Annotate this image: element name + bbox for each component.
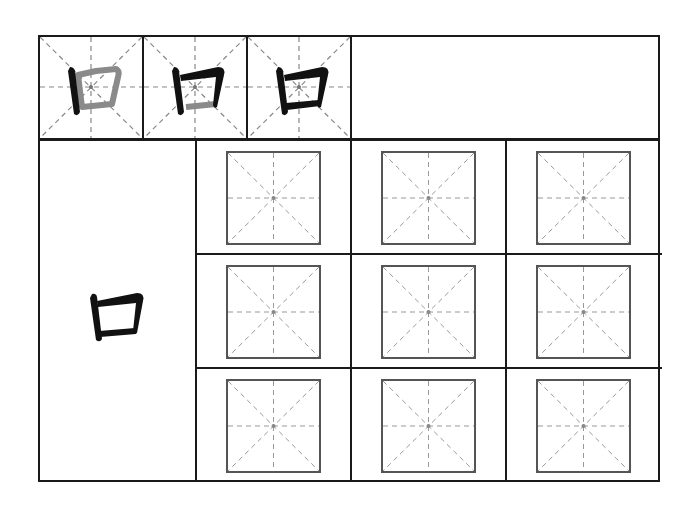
stroke-order-cell-3 — [248, 37, 352, 138]
practice-cell-r2c2[interactable] — [352, 255, 507, 369]
stroke-step-2-icon — [144, 37, 246, 138]
practice-cell-r3c3[interactable] — [507, 369, 662, 480]
model-character-cell — [40, 141, 197, 480]
mizi-grid-box — [536, 151, 631, 245]
practice-cell-r3c2[interactable] — [352, 369, 507, 480]
mizi-grid-box — [226, 265, 321, 359]
stroke-order-row — [40, 37, 658, 141]
stroke-step-1-icon — [40, 37, 142, 138]
mizi-grid-box — [226, 151, 321, 245]
practice-cell-r1c3[interactable] — [507, 141, 662, 255]
stroke-step-3-icon — [248, 37, 350, 138]
mizi-grid-box — [226, 379, 321, 473]
practice-cell-r2c3[interactable] — [507, 255, 662, 369]
writing-practice-sheet — [38, 35, 660, 482]
stroke-order-cell-1 — [40, 37, 144, 138]
mizi-grid-box — [381, 151, 476, 245]
blank-header-area — [352, 37, 658, 138]
mizi-grid-box — [381, 265, 476, 359]
practice-cell-r1c1[interactable] — [197, 141, 352, 255]
practice-cell-r1c2[interactable] — [352, 141, 507, 255]
mizi-grid-box — [536, 379, 631, 473]
stroke-order-cell-2 — [144, 37, 248, 138]
model-character-icon — [85, 281, 155, 351]
mizi-grid-box — [536, 265, 631, 359]
practice-cell-r2c1[interactable] — [197, 255, 352, 369]
practice-cell-r3c1[interactable] — [197, 369, 352, 480]
mizi-grid-box — [381, 379, 476, 473]
